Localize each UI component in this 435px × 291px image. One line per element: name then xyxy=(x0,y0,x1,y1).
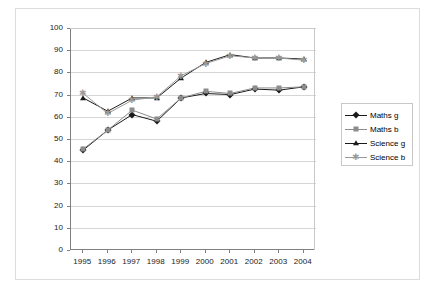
x-axis-tick-mark xyxy=(205,250,206,253)
chart-legend: Maths gMaths bScience g✱Science b xyxy=(341,103,413,166)
legend-item-maths-b[interactable]: Maths b xyxy=(345,122,409,136)
series-line-maths-g xyxy=(83,87,304,150)
y-axis-tick-label: 30 xyxy=(35,179,63,187)
legend-item-science-g[interactable]: Science g xyxy=(345,136,409,150)
y-axis-tick-label: 10 xyxy=(35,224,63,232)
plot-frame-top xyxy=(70,28,315,29)
legend-marker-diamond-icon xyxy=(352,111,359,118)
legend-marker-square-icon xyxy=(354,127,359,132)
plot-area: ✱✱✱✱✱✱✱✱✱✱ xyxy=(70,28,315,250)
x-axis-tick-mark xyxy=(131,250,132,253)
y-axis-tick-label: 90 xyxy=(35,46,63,54)
data-point-marker: ✱ xyxy=(177,71,185,80)
legend-swatch-diamond-icon xyxy=(345,110,367,120)
y-axis-tick-label: 40 xyxy=(35,157,63,165)
data-point-marker xyxy=(301,84,306,89)
data-point-marker xyxy=(203,89,208,94)
legend-swatch-triangle-icon xyxy=(345,138,367,148)
data-point-marker: ✱ xyxy=(275,53,283,62)
y-axis-tick-label: 100 xyxy=(35,24,63,32)
data-point-marker: ✱ xyxy=(202,59,210,68)
x-axis-tick-mark xyxy=(254,250,255,253)
series-line-science-b xyxy=(83,56,304,114)
chart-figure: % level 4+ 0102030405060708090100 199519… xyxy=(0,0,435,291)
data-point-marker: ✱ xyxy=(104,109,112,118)
data-point-marker xyxy=(130,108,135,113)
data-point-marker xyxy=(277,85,282,90)
y-axis-tick-label: 60 xyxy=(35,113,63,121)
y-axis-tick-mark xyxy=(67,250,70,251)
data-point-marker xyxy=(81,146,86,151)
x-axis-tick-mark xyxy=(82,250,83,253)
x-axis-tick-mark xyxy=(156,250,157,253)
legend-swatch-star-icon: ✱ xyxy=(345,152,367,162)
y-axis-tick-label: 80 xyxy=(35,68,63,76)
legend-marker-triangle-icon xyxy=(353,140,359,145)
data-point-marker: ✱ xyxy=(251,53,259,62)
y-axis-tick-label: 20 xyxy=(35,202,63,210)
legend-item-maths-g[interactable]: Maths g xyxy=(345,108,409,122)
data-point-marker: ✱ xyxy=(153,92,161,101)
data-point-marker xyxy=(179,95,184,100)
data-point-marker: ✱ xyxy=(128,96,136,105)
x-axis-tick-label: 2004 xyxy=(288,258,318,266)
x-axis-tick-mark xyxy=(303,250,304,253)
x-axis-tick-mark xyxy=(180,250,181,253)
x-axis-tick-mark xyxy=(229,250,230,253)
data-point-marker xyxy=(228,91,233,96)
data-point-marker: ✱ xyxy=(226,51,234,60)
x-axis-tick-mark xyxy=(278,250,279,253)
legend-item-label: Maths b xyxy=(370,125,398,134)
data-point-marker xyxy=(252,85,257,90)
legend-item-label: Science g xyxy=(370,139,405,148)
data-point-marker xyxy=(105,128,110,133)
data-point-marker xyxy=(154,117,159,122)
y-axis-tick-label: 50 xyxy=(35,135,63,143)
legend-swatch-square-icon xyxy=(345,124,367,134)
series-line-science-g xyxy=(83,55,304,112)
plot-frame-right xyxy=(314,28,315,250)
data-point-marker: ✱ xyxy=(300,56,308,65)
legend-item-science-b[interactable]: ✱Science b xyxy=(345,150,409,164)
legend-item-label: Maths g xyxy=(370,111,398,120)
y-axis-tick-label: 70 xyxy=(35,91,63,99)
data-point-marker: ✱ xyxy=(79,89,87,98)
legend-marker-star-icon: ✱ xyxy=(352,153,360,162)
legend-item-label: Science b xyxy=(370,153,405,162)
x-axis-tick-mark xyxy=(107,250,108,253)
y-axis-tick-label: 0 xyxy=(35,246,63,254)
